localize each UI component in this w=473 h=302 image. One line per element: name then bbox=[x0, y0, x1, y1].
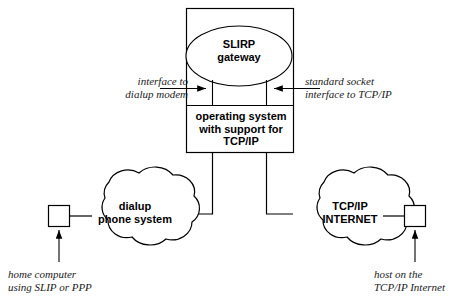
diagram-vector-layer bbox=[0, 0, 473, 302]
diagram-canvas: SLIRP gateway operating system with supp… bbox=[0, 0, 473, 302]
slirp-gateway-ellipse bbox=[186, 26, 292, 86]
cloud-internet-shape bbox=[317, 167, 414, 245]
cloud-dialup-shape bbox=[102, 167, 199, 245]
home-computer-square bbox=[49, 206, 70, 227]
internet-host-square bbox=[405, 206, 426, 227]
link-os-to-internet-cloud bbox=[267, 153, 294, 215]
